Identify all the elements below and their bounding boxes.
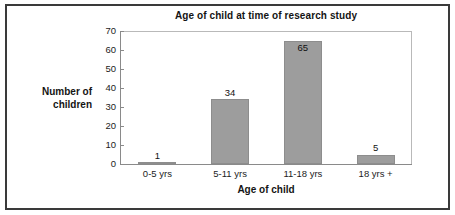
bar-group: 1 [121,31,194,164]
y-axis-tick-label: 30 [95,102,116,112]
bar [284,41,322,165]
y-axis-tick-mark [120,164,124,165]
y-axis-title: Number of children [18,85,92,111]
bar-value-label: 65 [298,43,309,53]
x-axis-tick-label: 5-11 yrs [213,168,247,179]
y-axis-tick-label: 0 [95,159,116,169]
bar-value-label: 5 [373,143,378,153]
bar [138,162,176,164]
x-axis-line [120,164,412,165]
y-axis-title-line-1: Number of [18,85,92,98]
bar [211,99,249,164]
x-axis-title: Age of child [120,184,412,195]
x-axis-tick-label: 0-5 yrs [143,168,172,179]
bars-layer: 134655 [121,31,412,164]
chart-figure: Age of child at time of research study 0… [0,0,455,215]
bar-value-label: 34 [225,88,236,98]
bar-value-label: 1 [155,151,160,161]
y-axis-tick-label: 50 [95,64,116,74]
x-axis-tick-label: 18 yrs + [359,168,393,179]
bar [357,155,395,165]
y-axis-tick-label: 40 [95,83,116,93]
bar-group: 34 [194,31,267,164]
y-axis-tick-label: 60 [95,45,116,55]
bar-group: 5 [339,31,412,164]
y-axis-tick-label: 70 [95,26,116,36]
y-axis-tick-label: 10 [95,140,116,150]
x-axis-tick-label: 11-18 yrs [283,168,322,179]
chart-title: Age of child at time of research study [120,10,412,21]
bar-group: 65 [267,31,340,164]
y-axis-title-line-2: children [18,98,92,111]
y-axis-tick-label: 20 [95,121,116,131]
y-axis-tick-labels: 010203040506070 [95,31,116,165]
